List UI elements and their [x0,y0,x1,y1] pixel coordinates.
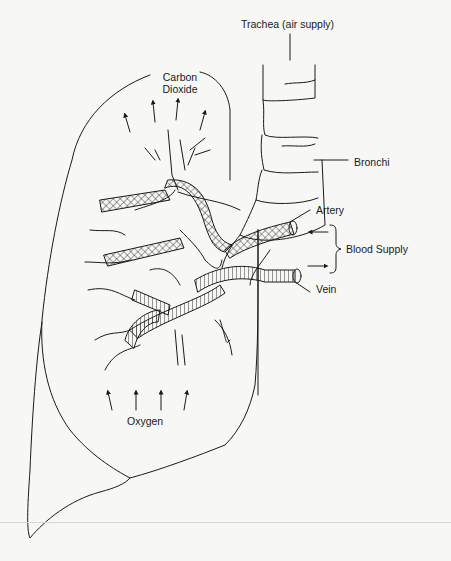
carbon-dioxide-arrows [125,100,205,132]
page-divider [0,522,451,523]
lung-illustration [0,0,451,561]
bronchi-label: Bronchi [354,156,390,168]
trachea-label: Trachea (air supply) [241,18,334,30]
oxygen-label: Oxygen [127,415,163,427]
vein-label: Vein [316,283,336,295]
blood-supply-brace [330,225,341,273]
carbon-dioxide-line1: Carbon [155,71,205,83]
artery-vessel [100,190,170,212]
artery-label: Artery [316,204,344,216]
lung-diagram: Trachea (air supply) Carbon Dioxide Bron… [0,0,451,561]
carbon-dioxide-label: Carbon Dioxide [155,71,205,95]
vein-vessel [195,266,295,292]
oxygen-arrows [108,392,187,410]
blood-supply-label: Blood Supply [346,243,408,255]
carbon-dioxide-line2: Dioxide [155,83,205,95]
